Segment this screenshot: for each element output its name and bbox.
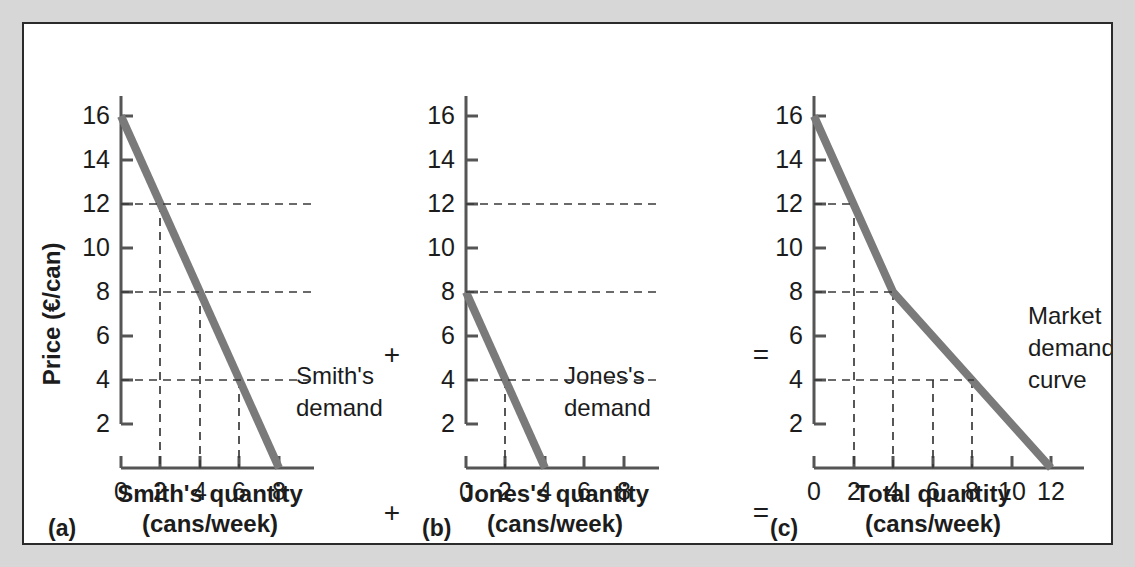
y-tick-label: 10 (427, 233, 455, 261)
plus-operator-upper: + (384, 339, 400, 370)
y-tick-label: 6 (441, 321, 455, 349)
panel-a-x-title-line1: Smith's quantity (117, 480, 303, 507)
figure-frame: Price (€/can) 16 14 12 10 8 6 4 2 (22, 22, 1113, 545)
y-tick-label: 14 (775, 145, 803, 173)
smith-demand-label-line1: Smith's (296, 362, 374, 389)
y-tick-label: 16 (427, 101, 455, 129)
y-tick-label: 16 (775, 101, 803, 129)
y-tick-label: 8 (441, 277, 455, 305)
y-tick-label: 8 (789, 277, 803, 305)
y-tick-label: 4 (96, 365, 110, 393)
y-tick-label: 14 (82, 145, 110, 173)
panel-c-y-ticks (814, 116, 826, 424)
panel-c-x-title-line2: (cans/week) (865, 510, 1001, 537)
y-tick-label: 10 (82, 233, 110, 261)
panel-c-letter: (c) (770, 515, 798, 541)
jones-demand-label-line1: Jones's (564, 362, 645, 389)
y-tick-label: 4 (789, 365, 803, 393)
plus-operator-lower: + (384, 497, 400, 528)
y-tick-label: 12 (427, 189, 455, 217)
panel-c-x-title-line1: Total quantity (855, 480, 1011, 507)
plot-stage: Price (€/can) 16 14 12 10 8 6 4 2 (24, 24, 1111, 543)
market-demand-label-line2: demand (1028, 334, 1111, 361)
panel-b-x-title-line1: Jones's quantity (461, 480, 650, 507)
y-tick-label: 8 (96, 277, 110, 305)
jones-demand-label-line2: demand (564, 394, 651, 421)
panel-b-y-tick-labels: 16 14 12 10 8 6 4 2 (427, 101, 455, 437)
market-demand-label-line1: Market (1028, 302, 1102, 329)
x-tick-label: 0 (807, 477, 821, 505)
y-tick-label: 12 (82, 189, 110, 217)
panel-a-y-tick-labels: 16 14 12 10 8 6 4 2 (82, 101, 110, 437)
panel-b-letter: (b) (422, 515, 451, 541)
horizontal-reference-lines (121, 204, 974, 380)
y-tick-label: 2 (789, 409, 803, 437)
y-tick-label: 2 (96, 409, 110, 437)
y-axis-label-group: Price (€/can) (38, 243, 65, 386)
smith-demand-label-line2: demand (296, 394, 383, 421)
market-demand-label-line3: curve (1028, 366, 1087, 393)
panel-b-x-title-line2: (cans/week) (487, 510, 623, 537)
smith-demand-curve (121, 116, 279, 468)
y-tick-label: 6 (96, 321, 110, 349)
y-tick-label: 16 (82, 101, 110, 129)
panel-b-y-ticks (466, 116, 478, 424)
y-tick-label: 4 (441, 365, 455, 393)
y-tick-label: 6 (789, 321, 803, 349)
y-tick-label: 10 (775, 233, 803, 261)
equals-operator-lower: = (753, 497, 769, 528)
y-tick-label: 12 (775, 189, 803, 217)
panel-c-y-tick-labels: 16 14 12 10 8 6 4 2 (775, 101, 803, 437)
panel-a-letter: (a) (48, 515, 76, 541)
panel-b: 16 14 12 10 8 6 4 2 (422, 96, 659, 541)
panel-a-x-title-line2: (cans/week) (142, 510, 278, 537)
y-tick-label: 14 (427, 145, 455, 173)
panel-c: 16 14 12 10 8 6 4 2 (770, 96, 1111, 541)
equals-operator-upper: = (753, 339, 769, 370)
y-tick-label: 2 (441, 409, 455, 437)
panel-a: 16 14 12 10 8 6 4 2 (48, 96, 383, 541)
panel-a-y-ticks (121, 116, 133, 424)
x-tick-label: 12 (1037, 477, 1065, 505)
demand-curves-figure: Price (€/can) 16 14 12 10 8 6 4 2 (24, 24, 1111, 543)
y-axis-label: Price (€/can) (38, 243, 65, 386)
